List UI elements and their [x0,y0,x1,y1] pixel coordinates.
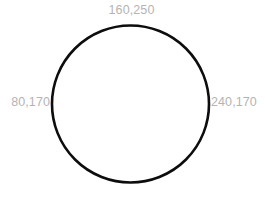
coordinate-label-left: 80,170 [0,95,52,109]
circle-outline[interactable] [52,26,209,183]
coordinate-label-right: 240,170 [211,95,257,109]
diagram-canvas: 160,250 80,170 240,170 [0,0,265,197]
coordinate-label-top: 160,250 [0,3,264,17]
